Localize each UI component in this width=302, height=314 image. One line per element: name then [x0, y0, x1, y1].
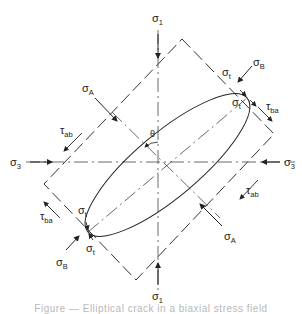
sigma3-right-label: σ3 — [284, 156, 295, 171]
sigmaB-upper-label: σB — [253, 56, 265, 71]
sigma3-left-label: σ3 — [10, 156, 21, 171]
sigmaB-lower-label: σB — [56, 256, 68, 271]
sigma-t-ur-label-1: σt — [222, 66, 232, 81]
tau-ab-left-label: τab — [60, 124, 73, 139]
sigmaA-upper-arrow — [95, 98, 117, 121]
theta-label: θ — [150, 129, 155, 139]
sigma-t-ll-label-2: σt — [86, 242, 96, 257]
figure-caption: Figure — Elliptical crack in a biaxial s… — [0, 303, 302, 314]
sigmaB-upper-arrow — [238, 66, 252, 82]
sigma1-top-label: σ1 — [152, 12, 163, 27]
element-minor-axis — [112, 112, 220, 218]
sigma-t-ur-label-2: σt — [232, 96, 242, 111]
ellipse-major-axis — [88, 98, 247, 232]
tau-ba-left-label: τba — [40, 210, 54, 225]
sigma-t-ur-arrow-2 — [250, 100, 256, 106]
sigmaA-lower-label: σA — [224, 230, 236, 245]
sigma-t-ll-label-1: σt — [78, 204, 88, 219]
rotated-element-square — [44, 39, 274, 280]
sigmaB-lower-arrow — [66, 236, 79, 250]
tau-ba-right-label: τba — [266, 100, 280, 115]
sigmaA-lower-arrow — [200, 204, 222, 226]
sigmaA-upper-label: σA — [82, 82, 94, 97]
